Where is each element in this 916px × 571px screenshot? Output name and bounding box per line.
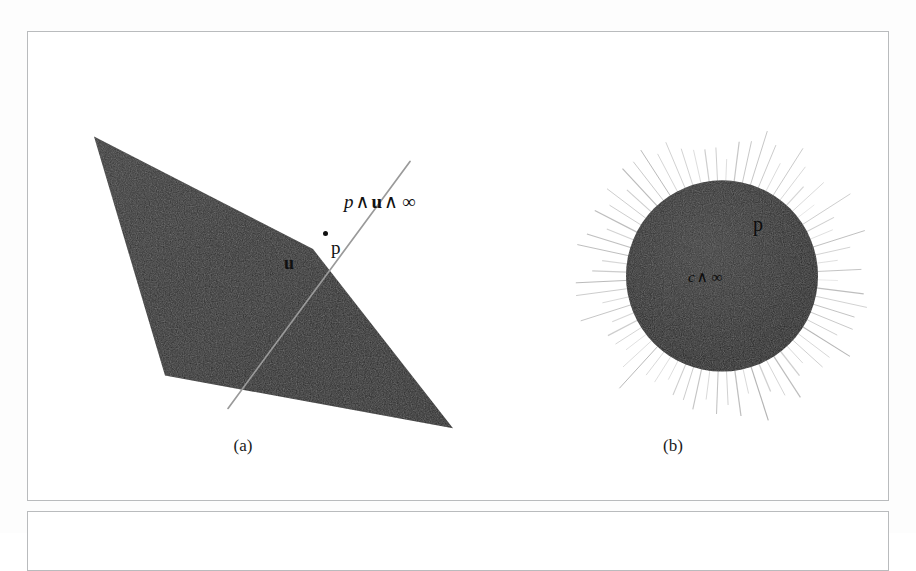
- figure-frame-next: [27, 511, 889, 571]
- ray: [623, 338, 654, 367]
- ray: [808, 230, 833, 241]
- ray: [681, 149, 694, 188]
- ray: [577, 245, 630, 257]
- ray: [811, 231, 865, 248]
- ray: [576, 288, 630, 295]
- figure-frame-main: p∧u∧∞ p u (a): [27, 31, 889, 501]
- ray: [743, 367, 749, 394]
- ray: [646, 350, 666, 375]
- ray: [608, 320, 638, 336]
- ray: [751, 366, 769, 421]
- ray: [607, 229, 635, 241]
- ray: [612, 312, 635, 321]
- ray: [805, 217, 834, 232]
- ray: [576, 280, 629, 282]
- panel-b: p c∧∞ (b): [498, 32, 890, 500]
- ray: [780, 351, 799, 376]
- ray: [796, 332, 830, 358]
- ray: [717, 369, 719, 414]
- ray: [683, 365, 694, 400]
- panel-a: p∧u∧∞ p u (a): [28, 32, 498, 500]
- ray: [757, 145, 776, 190]
- ray: [814, 260, 837, 263]
- ray: [716, 148, 718, 183]
- ray: [602, 261, 628, 264]
- ray: [815, 269, 861, 271]
- sphere-point-label-p: p: [753, 214, 763, 234]
- ray: [658, 154, 679, 195]
- ray: [750, 131, 768, 188]
- line-label-u: u: [371, 191, 382, 212]
- panel-b-artwork: [498, 32, 890, 500]
- normal-vector-label-u: u: [284, 254, 294, 272]
- ray: [602, 296, 631, 302]
- ray: [726, 369, 728, 405]
- ray: [595, 211, 638, 233]
- ray: [592, 271, 627, 272]
- sphere-center-label-c-wedge-infinity: c∧∞: [688, 270, 724, 285]
- ray: [734, 142, 739, 183]
- sphere-label-infinity: ∞: [710, 269, 725, 285]
- point-label-p: p: [331, 238, 341, 257]
- ray: [742, 141, 752, 185]
- ray: [778, 167, 806, 203]
- ray: [666, 142, 687, 191]
- ray: [808, 311, 853, 329]
- panel-a-artwork: [28, 32, 498, 500]
- ray: [610, 205, 644, 226]
- ray: [813, 247, 851, 255]
- ray: [627, 190, 653, 213]
- ray: [790, 182, 824, 213]
- ray: [735, 369, 741, 416]
- ray: [812, 295, 867, 307]
- ray: [726, 159, 727, 183]
- ray: [706, 368, 710, 400]
- line-label-wedge-1: ∧: [354, 191, 372, 212]
- plane-quadrilateral: [94, 137, 453, 429]
- line-label-p-wedge-u-wedge-infinity: p∧u∧∞: [344, 192, 417, 211]
- ray: [641, 150, 672, 197]
- line-label-p: p: [344, 191, 354, 212]
- ray: [655, 354, 673, 382]
- ray: [607, 189, 648, 220]
- sphere-label-wedge: ∧: [695, 269, 710, 285]
- ray: [693, 368, 702, 410]
- ray: [694, 150, 702, 186]
- ray: [759, 363, 771, 391]
- caption-panel-a: (a): [193, 436, 293, 456]
- ray: [705, 149, 710, 182]
- line-label-infinity: ∞: [400, 191, 418, 212]
- ray: [791, 338, 823, 367]
- ray: [581, 304, 634, 321]
- caption-panel-b: (b): [623, 436, 723, 456]
- ray: [773, 355, 800, 397]
- ray: [668, 359, 679, 380]
- ray: [765, 358, 785, 396]
- sphere-label-c: c: [688, 269, 695, 285]
- line-label-wedge-2: ∧: [382, 191, 400, 212]
- point-p-marker: [323, 231, 328, 236]
- ray: [816, 288, 864, 294]
- ray: [623, 169, 659, 207]
